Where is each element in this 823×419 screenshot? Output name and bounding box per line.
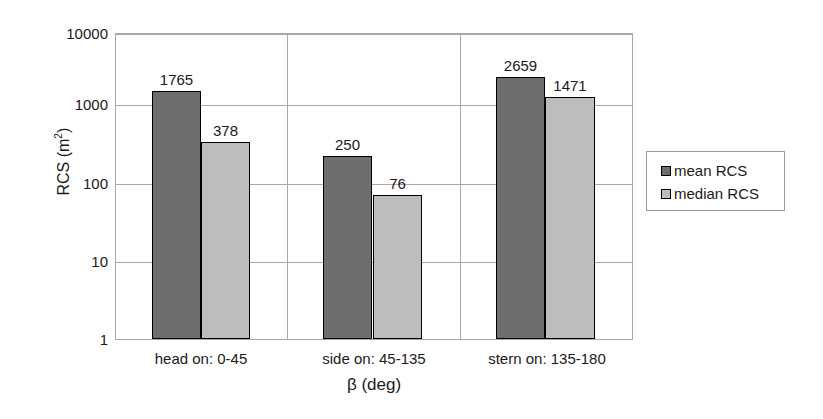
bar-mean-head-on[interactable] — [152, 91, 201, 339]
bar-label-median-head-on: 378 — [201, 123, 250, 138]
y-tick-label-100: 100 — [42, 176, 108, 191]
bar-median-side-on[interactable] — [373, 195, 422, 339]
rcs-bar-chart-figure: 10000 1000 100 10 1 RCS (m2) 1765 378 25… — [0, 0, 823, 419]
legend: mean RCS median RCS — [646, 151, 785, 211]
bar-mean-stern-on[interactable] — [496, 77, 545, 339]
y-tick-label-1: 1 — [42, 332, 108, 347]
bar-label-mean-side-on: 250 — [323, 137, 372, 152]
gridline-1 — [116, 339, 632, 340]
bar-mean-side-on[interactable] — [323, 156, 372, 339]
bar-label-median-side-on: 76 — [373, 176, 422, 191]
y-axis-title: RCS (m2) — [53, 82, 72, 242]
bar-label-mean-stern-on: 2659 — [496, 58, 545, 73]
x-axis-title: β (deg) — [115, 375, 633, 395]
plot-area: 1765 378 250 76 2659 1471 — [115, 33, 633, 340]
legend-item-mean[interactable]: mean RCS — [661, 159, 784, 182]
y-tick-label-10000: 10000 — [42, 26, 108, 41]
legend-swatch-mean-icon — [661, 166, 671, 176]
category-divider-1 — [287, 34, 288, 339]
x-category-label-head-on: head on: 0-45 — [115, 351, 287, 367]
y-tick-label-10: 10 — [42, 254, 108, 269]
category-divider-2 — [460, 34, 461, 339]
legend-label-mean: mean RCS — [674, 163, 747, 178]
legend-swatch-median-icon — [661, 189, 671, 199]
legend-label-median: median RCS — [674, 186, 759, 201]
y-axis-title-exponent: 2 — [53, 133, 64, 139]
legend-item-median[interactable]: median RCS — [661, 182, 784, 205]
bar-median-stern-on[interactable] — [545, 97, 595, 339]
bar-label-mean-head-on: 1765 — [152, 72, 201, 87]
gridline-10000 — [116, 34, 632, 35]
x-category-label-stern-on: stern on: 135-180 — [461, 351, 633, 367]
bar-label-median-stern-on: 1471 — [545, 78, 595, 93]
bar-median-head-on[interactable] — [201, 142, 250, 339]
y-axis-title-close: ) — [55, 128, 72, 133]
y-axis-title-main: RCS (m — [55, 139, 72, 196]
x-category-label-side-on: side on: 45-135 — [288, 351, 460, 367]
y-tick-label-1000: 1000 — [42, 97, 108, 112]
